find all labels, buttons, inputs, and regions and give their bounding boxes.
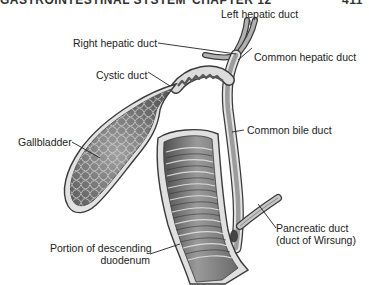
label-duodenum-line1: Portion of descending (50, 242, 150, 254)
label-pancreatic-duct: Pancreatic duct (duct of Wirsung) (276, 222, 356, 246)
label-cystic-duct: Cystic duct (96, 69, 147, 81)
pancreatic-duct (240, 198, 278, 226)
label-duodenum-line2: duodenum (50, 254, 150, 266)
label-left-hepatic-duct: Left hepatic duct (221, 8, 298, 20)
cystic-duct (176, 71, 229, 88)
label-pancreatic-duct-line2: (duct of Wirsung) (276, 234, 356, 246)
label-duodenum: Portion of descending duodenum (50, 242, 150, 266)
label-pancreatic-duct-line1: Pancreatic duct (276, 222, 356, 234)
label-right-hepatic-duct: Right hepatic duct (73, 37, 157, 49)
label-common-bile-duct: Common bile duct (247, 124, 332, 136)
label-gallbladder: Gallbladder (18, 136, 72, 148)
label-common-hepatic-duct: Common hepatic duct (254, 51, 356, 63)
